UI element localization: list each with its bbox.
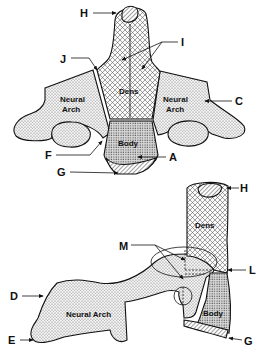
- label-e: E: [8, 334, 15, 346]
- dens-label: Dens: [119, 87, 139, 96]
- arrow-j: [71, 58, 97, 70]
- label-c: C: [235, 95, 243, 107]
- neural-arch-right-label-1: Neural: [163, 95, 188, 104]
- side-view: Dens Body Neural Arch H M L D E G: [8, 182, 256, 347]
- neural-arch-side-label: Neural Arch: [66, 310, 111, 319]
- body-side-label: Body: [203, 309, 224, 318]
- label-i: I: [181, 36, 184, 48]
- dens-side-label: Dens: [195, 221, 215, 230]
- front-view: Dens Body Neural Arch Neural Arch H I J …: [14, 6, 245, 178]
- neural-arch-left-label-2: Arch: [62, 105, 80, 114]
- body-label: Body: [118, 139, 139, 148]
- arrow-g-front: [70, 172, 118, 173]
- label-h-front: H: [80, 7, 88, 19]
- neural-arch-right-lobe: [168, 121, 208, 146]
- dens: [97, 8, 160, 119]
- label-a: A: [169, 151, 177, 163]
- label-d: D: [10, 290, 18, 302]
- label-g-front: G: [57, 166, 66, 178]
- label-f: F: [45, 149, 52, 161]
- label-l: L: [249, 264, 256, 276]
- neural-arch-right-label-2: Arch: [166, 105, 184, 114]
- label-g-side: G: [244, 335, 253, 347]
- neural-arch-left-label-1: Neural: [60, 95, 85, 104]
- arrow-g-side: [229, 338, 242, 340]
- dens-tip: [122, 6, 138, 22]
- diagram-canvas: Dens Body Neural Arch Neural Arch H I J …: [0, 0, 262, 354]
- label-h-side: H: [240, 182, 248, 194]
- label-m: M: [119, 240, 128, 252]
- neural-arch-left-lobe: [52, 122, 91, 147]
- label-j: J: [60, 53, 66, 65]
- neural-arch-side: [31, 254, 214, 343]
